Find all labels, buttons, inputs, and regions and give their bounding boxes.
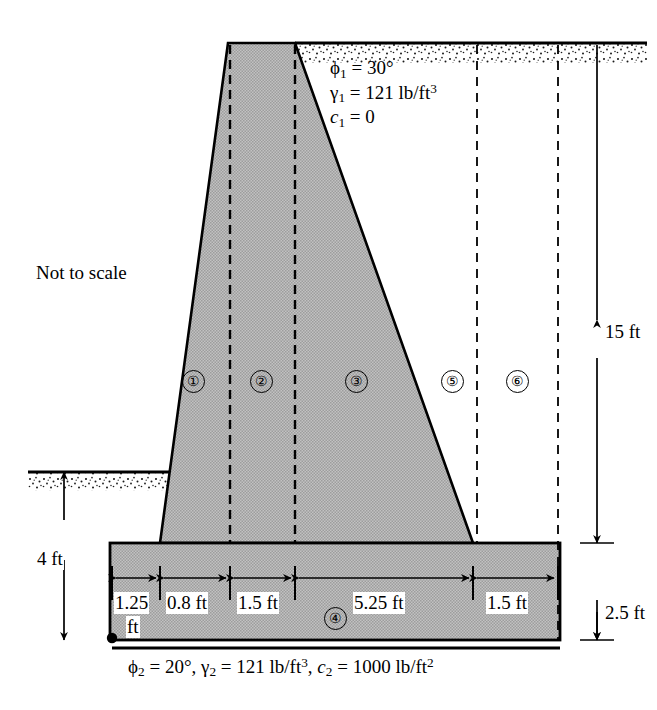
foundation-soil-properties: ϕ2 = 20°, γ2 = 121 lb/ft3, c2 = 1000 lb/…	[128, 655, 434, 680]
dimension-label-1p25ft-unit: ft	[126, 616, 140, 638]
phi2-subscript: 2	[138, 664, 145, 679]
dimension-label-5p25ft: 5.25 ft	[353, 592, 405, 614]
backfill-cohesion-row: c1 = 0	[330, 106, 437, 130]
gamma2-exponent: 3	[301, 655, 308, 670]
phi-symbol: ϕ	[330, 57, 340, 78]
dimension-label-1p5ft: 1.5 ft	[237, 592, 279, 614]
c2-subscript: 2	[326, 664, 333, 679]
region-label-3: ③	[345, 370, 368, 393]
toe-ground-surface	[28, 472, 173, 491]
phi-value: = 30°	[351, 57, 393, 78]
gamma-value: = 121 lb/ft	[350, 82, 430, 103]
c2-symbol: c	[317, 656, 325, 677]
gamma2-subscript: 2	[209, 664, 216, 679]
dimension-label-1p25ft: 1.25	[114, 592, 149, 614]
backfill-phi-row: ϕ1 = 30°	[330, 57, 437, 81]
phi2-value: = 20°,	[149, 656, 196, 677]
c-value: = 0	[350, 106, 375, 127]
phi-subscript: 1	[340, 66, 347, 81]
dimension-label-1p5ft-heel: 1.5 ft	[486, 592, 528, 614]
gamma-exponent: 3	[430, 81, 437, 96]
dimension-label-0p8ft: 0.8 ft	[166, 592, 208, 614]
dimension-label-2p5ft: 2.5 ft	[604, 602, 646, 624]
region-label-5: ⑤	[441, 370, 464, 393]
gamma2-value: = 121 lb/ft	[221, 656, 301, 677]
dimension-label-4ft: 4 ft	[36, 548, 64, 570]
region-label-6: ⑥	[506, 370, 529, 393]
c2-exponent: 2	[427, 655, 434, 670]
phi2-symbol: ϕ	[128, 656, 138, 677]
props-comma: ,	[308, 656, 313, 677]
backfill-gamma-row: γ1 = 121 lb/ft3	[330, 81, 437, 106]
region-label-1: ①	[182, 370, 205, 393]
diagram-canvas	[0, 0, 657, 710]
retaining-wall-diagram: Not to scale ϕ1 = 30° γ1 = 121 lb/ft3 c1…	[0, 0, 657, 710]
c-subscript: 1	[338, 115, 345, 130]
gamma-subscript: 1	[338, 91, 345, 106]
c2-value: = 1000 lb/ft	[337, 656, 427, 677]
origin-point	[107, 633, 117, 643]
region-label-2: ②	[250, 370, 273, 393]
dimension-15ft	[580, 45, 614, 543]
backfill-soil-properties: ϕ1 = 30° γ1 = 121 lb/ft3 c1 = 0	[330, 57, 437, 131]
dimension-label-15ft: 15 ft	[604, 321, 641, 343]
not-to-scale-note: Not to scale	[36, 262, 127, 284]
region-label-4: ④	[324, 607, 347, 630]
